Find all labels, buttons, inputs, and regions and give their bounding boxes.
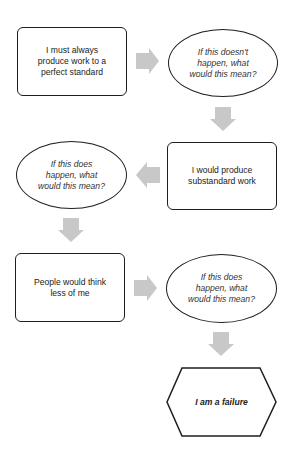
node-label: If this does happen, what would this mea… <box>37 159 106 192</box>
node-question-does-happen-1: If this does happen, what would this mea… <box>16 141 127 209</box>
arrow-down-icon <box>210 107 236 131</box>
node-people-think-less: People would think less of me <box>15 253 125 322</box>
node-label: People would think less of me <box>28 277 112 299</box>
node-label: If this does happen, what would this mea… <box>187 272 256 305</box>
node-perfect-standard: I must always produce work to a perfect … <box>17 27 127 96</box>
node-label: I am a failure <box>195 397 248 408</box>
arrow-down-icon <box>208 332 234 356</box>
node-substandard-work: I would produce substandard work <box>167 142 277 210</box>
node-label: I would produce substandard work <box>180 165 264 187</box>
arrow-left-icon <box>136 162 160 188</box>
arrow-down-icon <box>58 218 84 242</box>
arrow-right-icon <box>136 48 160 74</box>
node-label: If this doesn't happen, what would this … <box>189 47 257 80</box>
node-question-doesnt-happen: If this doesn't happen, what would this … <box>168 29 278 97</box>
node-question-does-happen-2: If this does happen, what would this mea… <box>166 254 277 323</box>
node-label: I must always produce work to a perfect … <box>30 45 114 78</box>
node-i-am-a-failure: I am a failure <box>166 367 277 437</box>
arrow-right-icon <box>134 275 158 301</box>
